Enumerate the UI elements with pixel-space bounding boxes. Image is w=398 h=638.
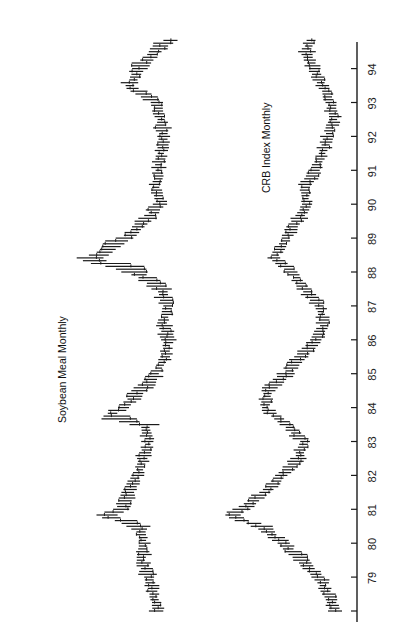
- soybean-meal-series: [77, 38, 178, 612]
- time-axis: 79808182838485868788899091929394: [351, 42, 378, 622]
- chart-canvas: 79808182838485868788899091929394 Soybean…: [0, 0, 398, 638]
- axis-tick-label: 84: [366, 402, 378, 414]
- axis-tick-label: 82: [366, 470, 378, 482]
- axis-tick-label: 80: [366, 538, 378, 550]
- axis-ticks: 79808182838485868788899091929394: [351, 63, 378, 611]
- crb-index-series: [225, 38, 342, 612]
- axis-tick-label: 79: [366, 572, 378, 584]
- axis-tick-label: 87: [366, 301, 378, 313]
- axis-tick-label: 91: [366, 165, 378, 177]
- axis-tick-label: 90: [366, 199, 378, 211]
- axis-tick-label: 83: [366, 436, 378, 448]
- axis-tick-label: 92: [366, 131, 378, 143]
- axis-tick-label: 93: [366, 97, 378, 109]
- soybean-series-label: Soybean Meal Monthly: [56, 315, 68, 423]
- axis-tick-label: 81: [366, 504, 378, 516]
- crb-series-label: CRB Index Monthly: [260, 102, 272, 193]
- axis-tick-label: 89: [366, 233, 378, 245]
- axis-tick-label: 85: [366, 368, 378, 380]
- axis-tick-label: 94: [366, 63, 378, 75]
- axis-tick-label: 88: [366, 267, 378, 279]
- axis-tick-label: 86: [366, 335, 378, 347]
